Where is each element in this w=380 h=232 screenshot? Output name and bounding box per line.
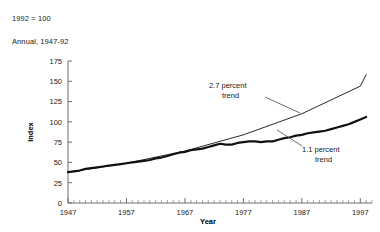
annotation-1-1-percent-trend: 1.1 percent trend <box>277 130 340 164</box>
x-tick-label-1947: 1947 <box>60 208 77 217</box>
y-tick-label-175: 175 <box>49 57 62 66</box>
y-axis-ticks <box>68 61 72 203</box>
x-tick-label-1977: 1977 <box>235 208 252 217</box>
chart-figure: 1992 = 100 Annual, 1947-92 0255075100125… <box>0 0 380 232</box>
x-axis: 194719571967197719871997 Year <box>60 198 372 226</box>
y-axis: 0255075100125150175 Index <box>26 57 72 208</box>
y-tick-label-150: 150 <box>49 77 62 86</box>
x-axis-tick-labels: 194719571967197719871997 <box>60 208 369 217</box>
x-axis-minor-ticks <box>68 198 372 203</box>
y-tick-label-125: 125 <box>49 97 62 106</box>
annotation-2-7-leader-line <box>265 97 300 113</box>
base-year-note: 1992 = 100 <box>12 15 51 23</box>
annotation-2-7-percent-trend: 2.7 percent trend <box>209 81 300 113</box>
y-axis-tick-labels: 0255075100125150175 <box>49 57 62 208</box>
y-tick-label-50: 50 <box>54 158 62 167</box>
y-axis-title: Index <box>26 121 35 141</box>
annotation-2-7-line1: 2.7 percent <box>209 81 247 90</box>
x-tick-label-1957: 1957 <box>118 208 135 217</box>
x-axis-title: Year <box>200 217 216 226</box>
x-tick-label-1997: 1997 <box>352 208 369 217</box>
annotation-1-1-line2: trend <box>315 155 332 164</box>
x-tick-label-1967: 1967 <box>177 208 194 217</box>
line-chart-plot: 0255075100125150175 Index 19471957196719… <box>0 0 380 232</box>
y-tick-label-25: 25 <box>54 179 62 188</box>
y-tick-label-0: 0 <box>58 199 62 208</box>
annotation-1-1-line1: 1.1 percent <box>302 145 340 154</box>
frequency-note: Annual, 1947-92 <box>12 38 69 46</box>
annotation-2-7-line2: trend <box>222 91 239 100</box>
x-tick-label-1987: 1987 <box>294 208 311 217</box>
y-tick-label-100: 100 <box>49 118 62 127</box>
y-tick-label-75: 75 <box>54 138 62 147</box>
